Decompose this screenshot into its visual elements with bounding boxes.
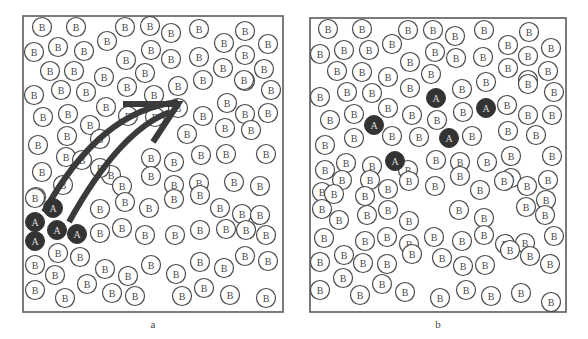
- host-atom-b-label: B: [336, 215, 343, 226]
- host-atom-b: B: [545, 227, 564, 246]
- host-atom-b: B: [311, 45, 330, 64]
- host-atom-b-label: B: [227, 290, 234, 301]
- host-atom-b: B: [34, 108, 53, 127]
- host-atom-b: B: [194, 107, 213, 126]
- host-atom-b: B: [236, 46, 255, 65]
- host-atom-b-label: B: [385, 205, 392, 216]
- host-atom-b-label: B: [81, 46, 88, 57]
- host-atom-b-label: B: [460, 107, 467, 118]
- host-atom-b-label: B: [148, 260, 155, 271]
- host-atom-b-label: B: [334, 66, 341, 77]
- panel-caption: b: [435, 318, 441, 330]
- host-atom-b: B: [26, 189, 45, 208]
- host-atom-b: B: [495, 172, 514, 191]
- host-atom-b: B: [379, 201, 398, 220]
- host-atom-b-label: B: [344, 87, 351, 98]
- solute-atom-a: A: [26, 213, 45, 232]
- host-atom-b: B: [527, 126, 546, 145]
- host-atom-b: B: [463, 127, 482, 146]
- host-atom-b: B: [236, 22, 255, 41]
- host-atom-b-label: B: [433, 155, 440, 166]
- host-atom-b-label: B: [243, 225, 250, 236]
- host-atom-b-label: B: [231, 177, 238, 188]
- host-atom-b: B: [477, 73, 496, 92]
- host-atom-b-label: B: [239, 209, 246, 220]
- host-atom-b: B: [545, 83, 564, 102]
- host-atom-b: B: [251, 177, 270, 196]
- host-atom-b-label: B: [265, 39, 272, 50]
- host-atom-b: B: [520, 23, 539, 42]
- host-atom-b-label: B: [196, 52, 203, 63]
- host-atom-b: B: [425, 228, 444, 247]
- host-atom-b: B: [383, 35, 402, 54]
- host-atom-b: B: [162, 24, 181, 43]
- host-atom-b: B: [451, 167, 470, 186]
- host-atom-b: B: [46, 266, 65, 285]
- host-atom-b-label: B: [62, 293, 69, 304]
- host-atom-b: B: [311, 88, 330, 107]
- host-atom-b-label: B: [351, 133, 358, 144]
- host-atom-b-label: B: [407, 57, 414, 68]
- host-atom-b: B: [95, 68, 114, 87]
- host-atom-b: B: [396, 283, 415, 302]
- host-atom-b: B: [454, 257, 473, 276]
- host-atom-b: B: [116, 193, 135, 212]
- host-atom-b-label: B: [168, 54, 175, 65]
- host-atom-b-label: B: [351, 109, 358, 120]
- solute-atom-a: A: [427, 89, 446, 108]
- host-atom-b-label: B: [359, 24, 366, 35]
- host-atom-b-label: B: [508, 151, 515, 162]
- host-atom-b-label: B: [317, 92, 324, 103]
- host-atom-b-label: B: [242, 109, 249, 120]
- host-atom-b-label: B: [428, 69, 435, 80]
- host-atom-b: B: [403, 245, 422, 264]
- host-atom-b-label: B: [460, 261, 467, 272]
- host-atom-b: B: [257, 226, 276, 245]
- host-atom-b: B: [471, 181, 490, 200]
- host-atom-b: B: [25, 86, 44, 105]
- host-atom-b: B: [358, 206, 377, 225]
- host-atom-b: B: [77, 83, 96, 102]
- host-atom-b: B: [178, 125, 197, 144]
- host-atom-b: B: [450, 201, 469, 220]
- host-atom-b-label: B: [103, 102, 110, 113]
- host-atom-b-label: B: [71, 66, 78, 77]
- host-atom-b: B: [191, 253, 210, 272]
- host-atom-b-label: B: [322, 140, 329, 151]
- host-atom-b: B: [313, 200, 332, 219]
- host-atom-b: B: [242, 121, 261, 140]
- host-atom-b-label: B: [32, 193, 39, 204]
- host-atom-b: B: [52, 81, 71, 100]
- host-atom-b-label: B: [481, 25, 488, 36]
- host-atom-b-label: B: [364, 210, 371, 221]
- host-atom-b: B: [330, 211, 349, 230]
- host-atom-b-label: B: [457, 171, 464, 182]
- host-atom-b-label: B: [148, 171, 155, 182]
- host-atom-b-label: B: [172, 230, 179, 241]
- host-atom-b-label: B: [389, 39, 396, 50]
- host-atom-b: B: [519, 75, 538, 94]
- host-atom-b-label: B: [483, 77, 490, 88]
- host-atom-b: B: [78, 275, 97, 294]
- solute-atom-a-label: A: [445, 133, 453, 144]
- host-atom-b: B: [167, 265, 186, 284]
- host-atom-b-label: B: [217, 203, 224, 214]
- host-atom-b-label: B: [549, 110, 556, 121]
- host-atom-b-label: B: [469, 131, 476, 142]
- host-atom-b: B: [335, 41, 354, 60]
- host-atom-b-label: B: [265, 256, 272, 267]
- host-atom-b-label: B: [453, 53, 460, 64]
- host-atom-b: B: [262, 81, 281, 100]
- host-atom-b-label: B: [384, 232, 391, 243]
- host-atom-b-label: B: [366, 45, 373, 56]
- host-atom-b-label: B: [223, 149, 230, 160]
- host-atom-b-label: B: [197, 225, 204, 236]
- host-atom-b-label: B: [430, 25, 437, 36]
- host-atom-b: B: [501, 241, 520, 260]
- host-atom-b-label: B: [331, 189, 338, 200]
- host-atom-b: B: [539, 171, 558, 190]
- host-atom-b: B: [142, 167, 161, 186]
- host-atom-b: B: [316, 136, 335, 155]
- host-atom-b-label: B: [317, 49, 324, 60]
- host-atom-b-label: B: [200, 75, 207, 86]
